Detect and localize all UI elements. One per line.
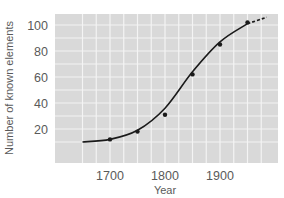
data-point [245, 20, 249, 24]
x-axis-ticks: 1700 1800 1900 [96, 169, 234, 183]
y-tick-80: 80 [34, 45, 48, 59]
x-tick-1700: 1700 [96, 169, 124, 183]
y-tick-20: 20 [34, 123, 48, 137]
y-axis-title: Number of known elements [3, 21, 15, 155]
x-tick-1800: 1800 [151, 169, 179, 183]
y-tick-60: 60 [34, 71, 48, 85]
y-tick-40: 40 [34, 97, 48, 111]
known-elements-chart: 100 80 60 40 20 1700 1800 1900 Year Numb… [0, 0, 284, 198]
data-point [218, 42, 222, 46]
data-point [190, 72, 194, 76]
data-point [163, 113, 167, 117]
y-tick-100: 100 [27, 19, 48, 33]
x-axis-title: Year [154, 184, 177, 196]
data-point [108, 137, 112, 141]
y-axis-ticks: 100 80 60 40 20 [27, 19, 48, 137]
x-tick-1900: 1900 [206, 169, 234, 183]
data-point [135, 129, 139, 133]
plot-area [55, 14, 278, 163]
